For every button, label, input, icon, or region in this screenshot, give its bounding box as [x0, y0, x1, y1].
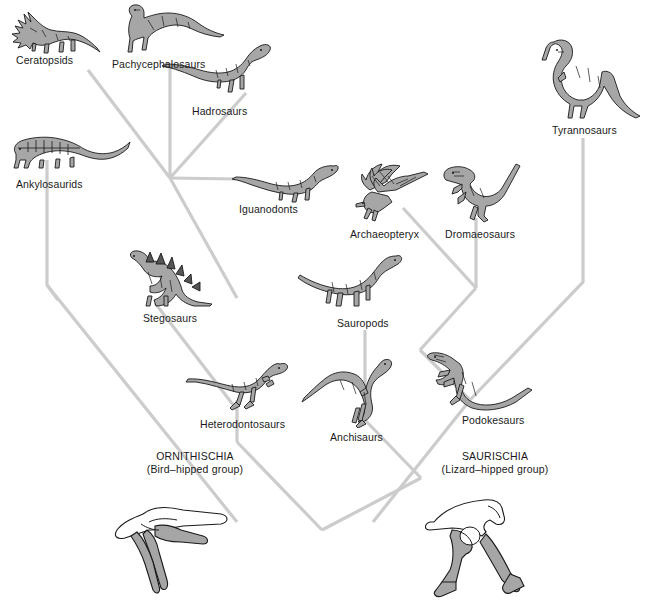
dinosaur-cladogram: Ceratopsids Pachycephalosaurs Hadrosaurs…: [0, 0, 646, 604]
group-name-ornithischia: ORNITHISCHIA: [125, 450, 265, 463]
taxon-label-anchisaurs: Anchisaurs: [330, 431, 383, 443]
sauropod-icon: [296, 248, 406, 312]
heterodontosaur-icon: [184, 356, 294, 412]
taxon-label-stegosaurs: Stegosaurs: [143, 312, 197, 324]
stegosaur-icon: [118, 248, 216, 310]
archaeopteryx-icon: [352, 162, 432, 226]
taxon-label-heterodontosaurs: Heterodontosaurs: [200, 418, 285, 430]
anchisaur-icon: [300, 352, 396, 428]
branch-stegosaurs: [155, 303, 195, 355]
taxon-label-iguanodonts: Iguanodonts: [239, 203, 298, 215]
branch-theropod-stem: [420, 288, 476, 350]
group-subtitle-saurischia: (Lizard–hipped group): [425, 463, 565, 476]
ankylosaurid-icon: [4, 130, 132, 176]
taxon-label-archaeopteryx: Archaeopteryx: [350, 228, 419, 240]
group-subtitle-ornithischia: (Bird–hipped group): [125, 463, 265, 476]
saurischian-hip-icon: [404, 496, 544, 600]
group-label-saurischia: SAURISCHIA (Lizard–hipped group): [425, 450, 565, 476]
ornithischian-hip-icon: [105, 500, 235, 600]
group-label-ornithischia: ORNITHISCHIA (Bird–hipped group): [125, 450, 265, 476]
taxon-label-tyrannosaurs: Tyrannosaurs: [552, 124, 617, 136]
branch-anchisaurs: [365, 420, 421, 478]
taxon-label-dromaeosaurs: Dromaeosaurs: [445, 228, 515, 240]
hadrosaur-icon: [160, 42, 284, 100]
taxon-label-sauropods: Sauropods: [337, 317, 389, 329]
tyrannosaur-icon: [528, 38, 640, 124]
iguanodont-icon: [230, 158, 340, 204]
taxon-label-pachycephalosaurs: Pachycephalosaurs: [112, 58, 205, 70]
taxon-label-ceratopsids: Ceratopsids: [16, 54, 73, 66]
dromaeosaur-icon: [440, 158, 524, 228]
branch-iguanodonts: [170, 178, 236, 179]
group-name-saurischia: SAURISCHIA: [425, 450, 565, 463]
taxon-label-podokesaurs: Podokesaurs: [462, 414, 524, 426]
ceratopsid-icon: [4, 10, 104, 58]
taxon-label-ankylosaurids: Ankylosaurids: [16, 178, 83, 190]
taxon-label-hadrosaurs: Hadrosaurs: [192, 105, 247, 117]
podokesaur-icon: [424, 350, 534, 412]
